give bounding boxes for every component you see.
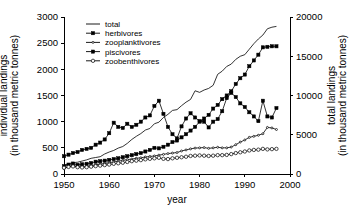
marker-zoobenthivores <box>184 155 187 158</box>
marker-piscivores <box>248 111 251 114</box>
y-tick-label-left: 1500 <box>37 90 58 101</box>
marker-zoobenthivores <box>261 147 264 150</box>
marker-piscivores <box>212 120 215 123</box>
marker-zoobenthivores <box>275 147 278 150</box>
marker-herbivores <box>162 145 165 148</box>
marker-piscivores <box>94 143 97 146</box>
marker-zoobenthivores <box>257 148 260 151</box>
marker-zoobenthivores <box>126 160 129 163</box>
marker-zoobenthivores <box>243 150 246 153</box>
marker-piscivores <box>148 114 151 117</box>
marker-zoobenthivores <box>225 153 228 156</box>
x-axis-title: year <box>167 194 187 205</box>
marker-zooplanktivores <box>167 153 169 155</box>
marker-zooplanktivores <box>262 133 264 135</box>
marker-zoobenthivores <box>252 148 255 151</box>
marker-piscivores <box>157 99 160 102</box>
series-zoobenthivores <box>62 147 278 169</box>
series-piscivores <box>62 91 278 158</box>
marker-herbivores <box>257 53 260 56</box>
legend-marker-zoobenthivores <box>91 59 94 62</box>
legend-marker-herbivores <box>91 32 94 35</box>
marker-herbivores <box>108 158 111 161</box>
marker-herbivores <box>180 136 183 139</box>
y-tick-label-left: 2000 <box>37 64 58 75</box>
figure-container: 0500100015002000250030000500010000150002… <box>0 0 360 224</box>
marker-herbivores <box>148 148 151 151</box>
marker-herbivores <box>157 147 160 150</box>
legend-item-piscivores[interactable]: piscivores <box>86 48 141 57</box>
marker-herbivores <box>261 46 264 49</box>
marker-zooplanktivores <box>257 134 259 136</box>
marker-zooplanktivores <box>185 149 187 151</box>
marker-zooplanktivores <box>176 152 178 154</box>
marker-zoobenthivores <box>166 157 169 160</box>
legend-item-total[interactable]: total <box>86 20 120 29</box>
marker-zooplanktivores <box>208 147 210 149</box>
marker-piscivores <box>193 116 196 119</box>
marker-piscivores <box>112 121 115 124</box>
marker-piscivores <box>275 106 278 109</box>
marker-piscivores <box>207 126 210 129</box>
marker-zooplanktivores <box>171 152 173 154</box>
marker-piscivores <box>243 105 246 108</box>
marker-zoobenthivores <box>270 147 273 150</box>
marker-zoobenthivores <box>89 165 92 168</box>
legend-item-zooplanktivores[interactable]: zooplanktivores <box>86 38 161 47</box>
marker-herbivores <box>203 117 206 120</box>
marker-herbivores <box>85 162 88 165</box>
marker-piscivores <box>144 116 147 119</box>
marker-zoobenthivores <box>207 154 210 157</box>
marker-zooplanktivores <box>266 126 268 128</box>
legend-item-zoobenthivores[interactable]: zoobenthivores <box>86 57 159 66</box>
y-axis-title-right-line: total landings <box>326 66 337 125</box>
marker-herbivores <box>193 125 196 128</box>
marker-herbivores <box>266 45 269 48</box>
marker-zoobenthivores <box>94 164 97 167</box>
marker-herbivores <box>153 146 156 149</box>
marker-piscivores <box>261 99 264 102</box>
x-tick-label: 1980 <box>189 179 210 190</box>
marker-zoobenthivores <box>175 156 178 159</box>
marker-piscivores <box>62 155 65 158</box>
marker-zoobenthivores <box>234 151 237 154</box>
marker-zooplanktivores <box>275 129 277 131</box>
series-line-piscivores <box>64 93 276 156</box>
marker-zoobenthivores <box>153 157 156 160</box>
x-tick-label: 2000 <box>279 179 300 190</box>
marker-zoobenthivores <box>189 154 192 157</box>
marker-herbivores <box>135 153 138 156</box>
y-tick-label-left: 1000 <box>37 116 58 127</box>
legend: totalherbivoreszooplanktivorespiscivores… <box>86 20 161 66</box>
marker-zooplanktivores <box>253 135 255 137</box>
marker-herbivores <box>189 129 192 132</box>
marker-piscivores <box>162 112 165 115</box>
marker-zoobenthivores <box>157 156 160 159</box>
marker-herbivores <box>221 98 224 101</box>
marker-herbivores <box>252 59 255 62</box>
marker-zoobenthivores <box>121 161 124 164</box>
marker-herbivores <box>234 82 237 85</box>
marker-herbivores <box>130 154 133 157</box>
marker-zoobenthivores <box>144 158 147 161</box>
legend-label-zooplanktivores: zooplanktivores <box>105 38 161 47</box>
marker-herbivores <box>144 150 147 153</box>
marker-zoobenthivores <box>76 165 79 168</box>
marker-piscivores <box>203 120 206 123</box>
marker-piscivores <box>175 137 178 140</box>
marker-zoobenthivores <box>67 165 70 168</box>
marker-zoobenthivores <box>71 165 74 168</box>
marker-piscivores <box>252 115 255 118</box>
legend-item-herbivores[interactable]: herbivores <box>86 29 142 38</box>
marker-zooplanktivores <box>162 153 164 155</box>
y-axis-title-right: total landings(in thousand metric tonnes… <box>326 35 348 156</box>
y-tick-label-left: 3000 <box>37 11 58 22</box>
marker-piscivores <box>135 123 138 126</box>
y-tick-label-right: 10000 <box>296 90 322 101</box>
marker-zoobenthivores <box>193 154 196 157</box>
marker-zoobenthivores <box>230 152 233 155</box>
y-axis-title-left: individual landings(in thousand metric t… <box>0 35 20 156</box>
marker-piscivores <box>270 116 273 119</box>
marker-herbivores <box>184 133 187 136</box>
marker-piscivores <box>121 126 124 129</box>
